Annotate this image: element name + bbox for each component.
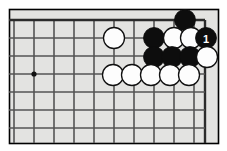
stone-labels-layer: 1	[203, 33, 209, 45]
white-stone-w-r4-c133[interactable]	[122, 65, 143, 86]
white-stone-w-r4-c171[interactable]	[160, 65, 181, 86]
go-board-svg: 1	[0, 0, 227, 151]
white-stone-w-r4-c114[interactable]	[103, 65, 124, 86]
move-number-label-1: 1	[203, 33, 209, 45]
white-stone-w-r4-c152[interactable]	[141, 65, 162, 86]
white-stone-w-r3-right[interactable]	[197, 47, 218, 68]
white-stone-w-left-upper[interactable]	[104, 28, 125, 49]
white-stone-w-r4-c190[interactable]	[179, 65, 200, 86]
black-stone-b-r2-c154[interactable]	[144, 28, 165, 49]
star-point-0	[31, 71, 36, 76]
go-board-diagram: 1	[0, 0, 227, 151]
star-points-layer	[31, 71, 36, 76]
